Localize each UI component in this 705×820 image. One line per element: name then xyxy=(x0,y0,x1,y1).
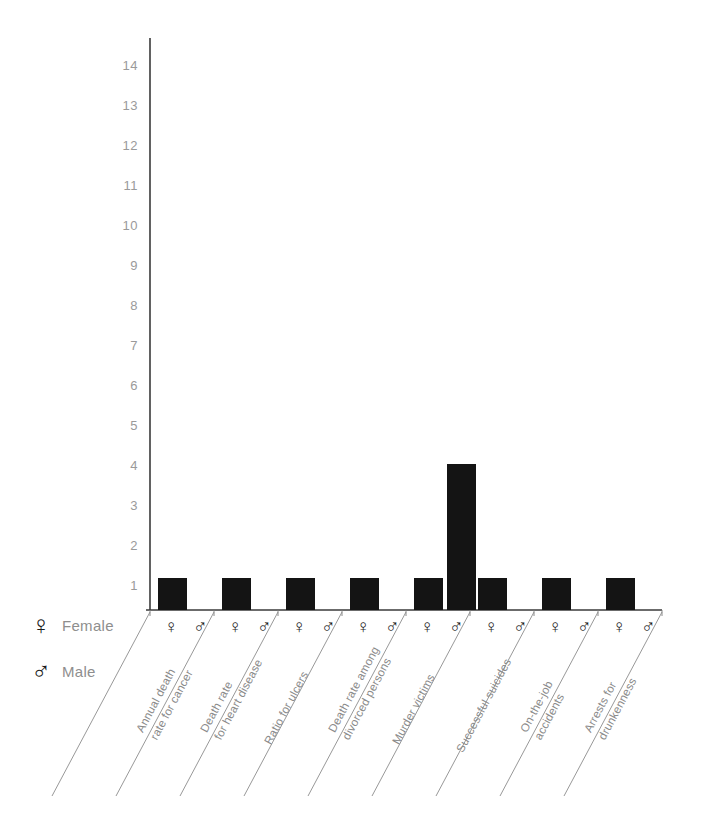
female-symbol-icon: ♀ xyxy=(30,612,52,638)
group-0-male-symbol: ♂ xyxy=(190,617,210,636)
y-tick-label-10: 10 xyxy=(112,218,138,233)
y-tick-label-5: 5 xyxy=(112,418,138,433)
bar-group-0-female xyxy=(158,578,187,610)
group-1-male-symbol: ♂ xyxy=(254,617,274,636)
y-tick-label-9: 9 xyxy=(112,258,138,273)
bar-group-3-female xyxy=(350,578,379,610)
category-label-6: On-the-job accidents xyxy=(517,678,571,742)
y-tick-label-6: 6 xyxy=(112,378,138,393)
bar-group-5-female xyxy=(478,578,507,610)
group-5-female-symbol: ♀ xyxy=(481,617,501,636)
category-label-5: Successful suicides xyxy=(453,656,516,755)
bar-group-2-female xyxy=(286,578,315,610)
group-3-female-symbol: ♀ xyxy=(353,617,373,636)
bar-group-6-female xyxy=(542,578,571,610)
legend-item-male: ♂ Male xyxy=(30,658,96,684)
group-6-male-symbol: ♂ xyxy=(574,617,594,636)
legend-label-male: Male xyxy=(62,663,96,680)
group-3-male-symbol: ♂ xyxy=(382,617,402,636)
group-5-male-symbol: ♂ xyxy=(510,617,530,636)
category-label-1: Death rate for heart disease xyxy=(197,649,266,742)
group-2-male-symbol: ♂ xyxy=(318,617,338,636)
category-label-0: Annual death rate for cancer xyxy=(133,660,197,743)
bar-group-4-male xyxy=(447,464,476,610)
y-tick-label-3: 3 xyxy=(112,498,138,513)
bar-group-4-female xyxy=(414,578,443,610)
group-7-female-symbol: ♀ xyxy=(609,617,629,636)
y-tick-label-8: 8 xyxy=(112,298,138,313)
legend-item-female: ♀ Female xyxy=(30,612,114,638)
group-4-male-symbol: ♂ xyxy=(446,617,466,636)
group-1-female-symbol: ♀ xyxy=(225,617,245,636)
y-tick-label-12: 12 xyxy=(112,138,138,153)
male-symbol-icon: ♂ xyxy=(30,658,52,684)
y-tick-label-13: 13 xyxy=(112,98,138,113)
category-label-2: Ratio for ulcers xyxy=(261,669,313,747)
group-6-female-symbol: ♀ xyxy=(545,617,565,636)
group-0-female-symbol: ♀ xyxy=(161,617,181,636)
y-tick-label-14: 14 xyxy=(112,58,138,73)
y-tick-label-2: 2 xyxy=(112,538,138,553)
group-2-female-symbol: ♀ xyxy=(289,617,309,636)
y-tick-label-11: 11 xyxy=(112,178,138,193)
y-tick-label-7: 7 xyxy=(112,338,138,353)
bar-group-7-female xyxy=(606,578,635,610)
legend-label-female: Female xyxy=(62,617,114,634)
category-label-3: Death rate among divorced persons xyxy=(325,644,397,743)
category-label-7: Arrests for drunkenness xyxy=(581,668,640,743)
chart-container: 14 13 12 11 10 9 8 7 6 5 4 3 2 1 ♀ ♂ ♀ ♂… xyxy=(0,0,705,820)
y-tick-label-4: 4 xyxy=(112,458,138,473)
category-label-4: Murder victims xyxy=(389,672,439,748)
group-4-female-symbol: ♀ xyxy=(417,617,437,636)
group-7-male-symbol: ♂ xyxy=(638,617,658,636)
y-tick-label-1: 1 xyxy=(112,578,138,593)
bar-group-1-female xyxy=(222,578,251,610)
